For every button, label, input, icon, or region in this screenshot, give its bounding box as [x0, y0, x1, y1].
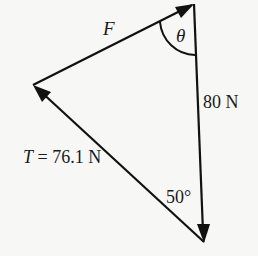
label-angle-50: 50° [166, 187, 191, 207]
label-T-magnitude: = 76.1 N [33, 147, 101, 167]
force-triangle-diagram: F θ 80 N T = 76.1 N 50° [0, 0, 258, 256]
label-theta: θ [176, 25, 185, 46]
label-weight-80N: 80 N [203, 92, 239, 112]
vector-F [33, 5, 192, 85]
label-F: F [102, 18, 115, 39]
arrowhead-F-icon [175, 4, 194, 18]
label-T-value: T = 76.1 N [23, 147, 101, 167]
vector-80N [194, 4, 203, 232]
